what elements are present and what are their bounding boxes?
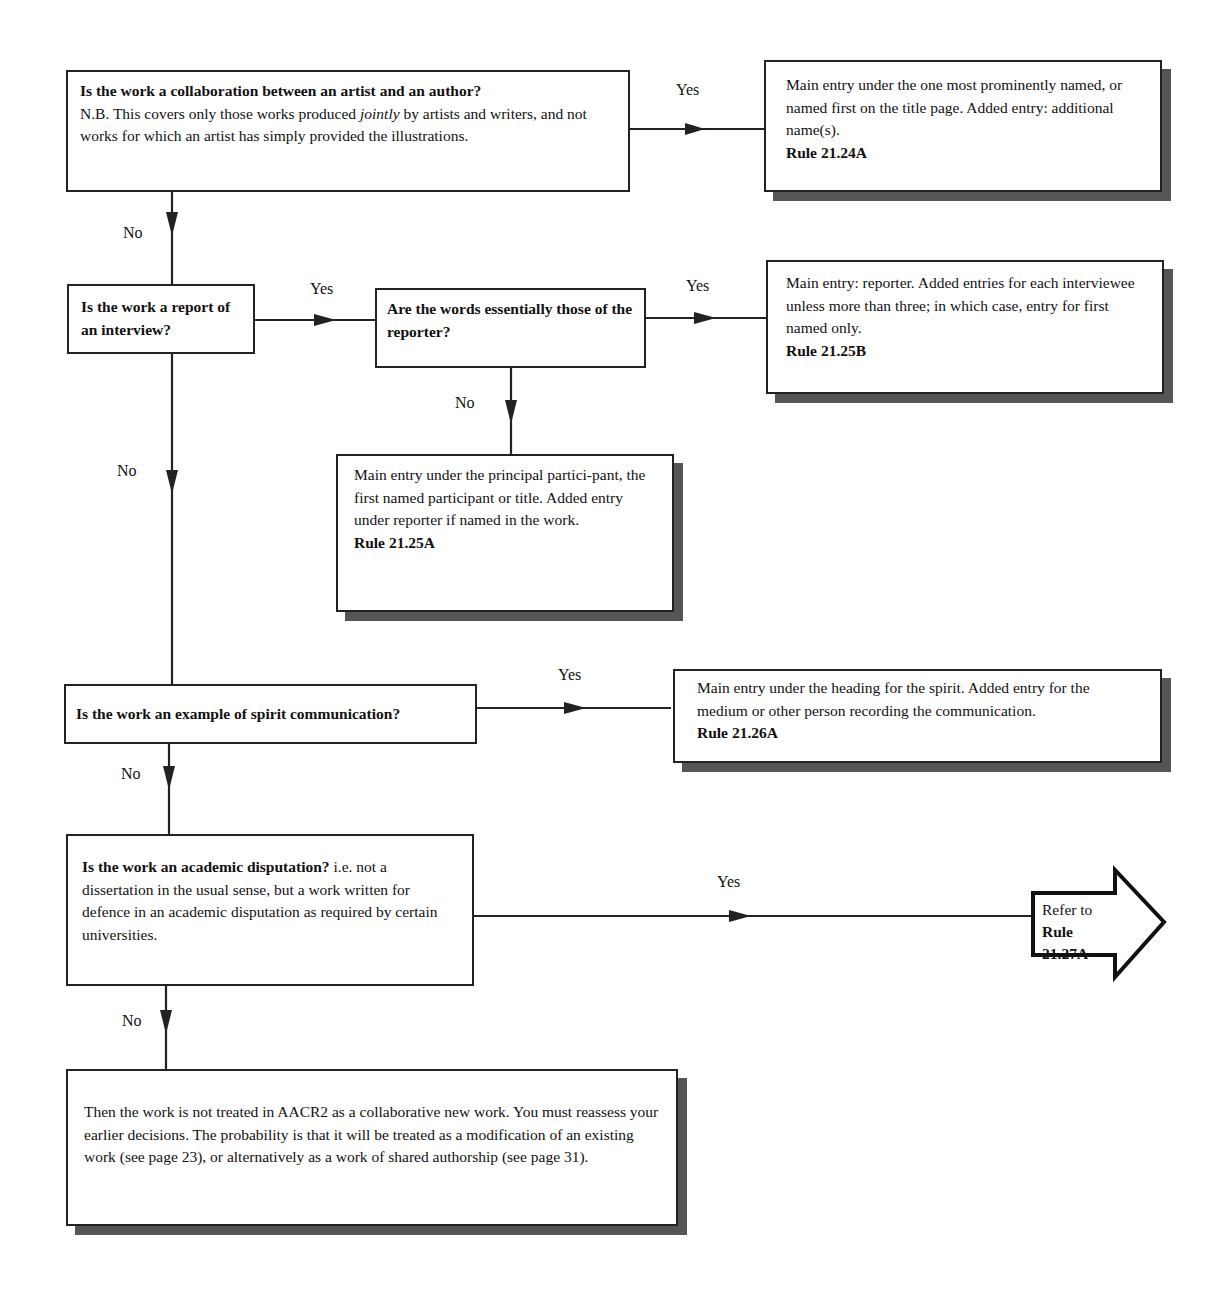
edge-label-no: No	[117, 462, 137, 480]
question-reporter-words: Are the words essentially those of the r…	[375, 288, 646, 368]
edge-label-yes: Yes	[558, 666, 581, 684]
result-text: Main entry: reporter. Added entries for …	[786, 274, 1135, 336]
edge-label-no: No	[455, 394, 475, 412]
edge-label-yes: Yes	[686, 277, 709, 295]
rule-reference: Rule 21.25B	[786, 340, 1144, 363]
question-text: Is the work an academic disputation?	[82, 858, 330, 875]
edge-label-no: No	[121, 765, 141, 783]
question-text: Is the work a report of an interview?	[81, 298, 230, 338]
note-emphasis: jointly	[360, 105, 400, 122]
result-text: Main entry under the one most prominentl…	[786, 76, 1122, 138]
edge-label-no: No	[123, 224, 143, 242]
result-not-collaborative: Then the work is not treated in AACR2 as…	[66, 1069, 678, 1226]
result-text: Then the work is not treated in AACR2 as…	[84, 1103, 658, 1165]
rule-reference: Rule 21.24A	[786, 142, 1140, 165]
question-collaboration: Is the work a collaboration between an a…	[66, 70, 630, 192]
refer-prefix: Refer to	[1042, 901, 1092, 918]
rule-reference: Rule 21.27A	[1042, 923, 1088, 962]
result-rule-21-26a: Main entry under the heading for the spi…	[673, 669, 1162, 763]
result-text: Main entry under the principal partici-p…	[354, 466, 645, 528]
question-spirit-communication: Is the work an example of spirit communi…	[64, 684, 477, 744]
question-academic-disputation: Is the work an academic disputation? i.e…	[66, 834, 474, 986]
edge-label-yes: Yes	[310, 280, 333, 298]
edge-label-yes: Yes	[717, 873, 740, 891]
result-text: Main entry under the heading for the spi…	[697, 679, 1090, 719]
result-rule-21-25a: Main entry under the principal partici-p…	[336, 454, 674, 612]
result-rule-21-24a: Main entry under the one most prominentl…	[764, 60, 1162, 192]
question-text: Are the words essentially those of the r…	[387, 300, 632, 340]
note-text: N.B. This covers only those works produc…	[80, 105, 360, 122]
rule-reference: Rule 21.25A	[354, 532, 656, 555]
question-text: Is the work a collaboration between an a…	[80, 82, 481, 99]
result-refer-21-27a: Refer to Rule 21.27A	[1042, 899, 1122, 965]
question-interview: Is the work a report of an interview?	[67, 284, 255, 354]
question-text: Is the work an example of spirit communi…	[76, 705, 400, 722]
rule-reference: Rule 21.26A	[697, 722, 1138, 745]
edge-label-yes: Yes	[676, 81, 699, 99]
edge-label-no: No	[122, 1012, 142, 1030]
result-rule-21-25b: Main entry: reporter. Added entries for …	[766, 260, 1164, 394]
